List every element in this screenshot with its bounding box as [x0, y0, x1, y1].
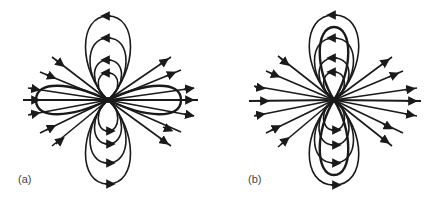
panel-b: (b) [221, 0, 442, 200]
source-point [331, 97, 337, 103]
panel-a: (a) [0, 0, 221, 200]
field-lines-diagram-b [221, 0, 442, 200]
field-lines-diagram-a [0, 0, 221, 200]
panel-label-a: (a) [18, 173, 31, 185]
panel-label-b: (b) [248, 173, 261, 185]
source-point [105, 97, 111, 103]
